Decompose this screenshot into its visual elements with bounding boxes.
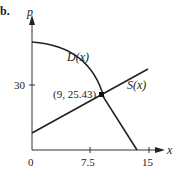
x-axis-label: x [166,143,173,157]
x-axis-arrow-icon [155,147,165,153]
chart: b. p x 0 7.5 15 30 D(x) S(x) (9, 25.43) [0,0,178,175]
demand-label: D(x) [66,50,89,64]
y-tick-label-30: 30 [14,79,26,91]
panel-label: b. [0,4,10,18]
x-tick-label-0: 0 [28,156,34,168]
x-tick-label-15: 15 [142,156,154,168]
supply-label: S(x) [127,78,146,92]
equilibrium-label: (9, 25.43) [53,88,96,101]
equilibrium-point [99,92,104,97]
y-axis-label: p [26,5,33,19]
x-tick-label-7-5: 7.5 [81,156,95,168]
